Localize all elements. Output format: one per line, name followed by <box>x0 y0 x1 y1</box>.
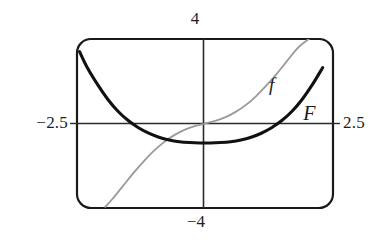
curve-label-F: F <box>303 103 315 123</box>
y-max-label: 4 <box>191 10 200 27</box>
y-min-label: −4 <box>187 213 206 230</box>
curve-label-f: f <box>269 75 274 94</box>
x-max-label: 2.5 <box>343 114 365 131</box>
graph-figure: 4 −4 −2.5 2.5 f F <box>0 0 386 247</box>
x-min-label: −2.5 <box>36 114 68 131</box>
